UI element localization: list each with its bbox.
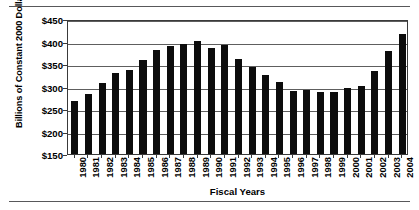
- y-tick-label: $250: [15, 105, 63, 116]
- bar: [358, 86, 365, 154]
- bar: [262, 75, 269, 154]
- x-tick-mark: [183, 155, 184, 158]
- y-tick-label: $400: [15, 37, 63, 48]
- y-tick-mark: [63, 155, 67, 156]
- bar: [330, 92, 337, 154]
- top-divider-rule: [9, 6, 410, 7]
- chart-figure: Billions of Constant 2000 Dollars $150$2…: [0, 0, 419, 210]
- bar: [221, 45, 228, 154]
- y-tick-label: $350: [15, 60, 63, 71]
- x-tick-mark: [169, 155, 170, 158]
- x-tick-mark: [306, 155, 307, 158]
- x-tick-mark: [360, 155, 361, 158]
- y-tick-label: $300: [15, 82, 63, 93]
- bottom-divider-rule: [9, 201, 410, 202]
- bar: [344, 88, 351, 154]
- x-tick-mark: [333, 155, 334, 158]
- x-tick-mark: [197, 155, 198, 158]
- x-tick-mark: [265, 155, 266, 158]
- plot-area: [67, 20, 408, 155]
- bar: [126, 70, 133, 154]
- bar: [303, 90, 310, 154]
- y-tick-label: $200: [15, 127, 63, 138]
- bar: [399, 34, 406, 154]
- x-tick-mark: [210, 155, 211, 158]
- x-tick-mark: [278, 155, 279, 158]
- y-tick-label: $450: [15, 15, 63, 26]
- bar: [85, 94, 92, 154]
- x-tick-mark: [319, 155, 320, 158]
- bar: [208, 48, 215, 154]
- bar: [153, 50, 160, 154]
- bar: [371, 71, 378, 154]
- x-tick-mark: [347, 155, 348, 158]
- y-tick-label: $150: [15, 150, 63, 161]
- x-tick-mark: [224, 155, 225, 158]
- x-tick-mark: [251, 155, 252, 158]
- x-tick-mark: [74, 155, 75, 158]
- bar: [194, 41, 201, 154]
- bar: [112, 73, 119, 154]
- bar-series: [68, 21, 407, 154]
- bar: [71, 101, 78, 154]
- x-tick-mark: [238, 155, 239, 158]
- bar: [317, 92, 324, 154]
- bar: [276, 82, 283, 154]
- bar: [290, 91, 297, 154]
- bar: [385, 51, 392, 154]
- bar: [235, 59, 242, 154]
- x-tick-mark: [128, 155, 129, 158]
- x-axis-title: Fiscal Years: [67, 186, 408, 197]
- x-tick-mark: [156, 155, 157, 158]
- bar: [139, 60, 146, 154]
- bar: [249, 67, 256, 154]
- x-tick-mark: [388, 155, 389, 158]
- x-tick-mark: [401, 155, 402, 158]
- x-tick-mark: [142, 155, 143, 158]
- bar: [99, 83, 106, 154]
- bar: [180, 44, 187, 154]
- x-tick-mark: [115, 155, 116, 158]
- x-tick-mark: [292, 155, 293, 158]
- x-tick-mark: [374, 155, 375, 158]
- x-tick-mark: [87, 155, 88, 158]
- bar: [167, 46, 174, 154]
- x-tick-mark: [101, 155, 102, 158]
